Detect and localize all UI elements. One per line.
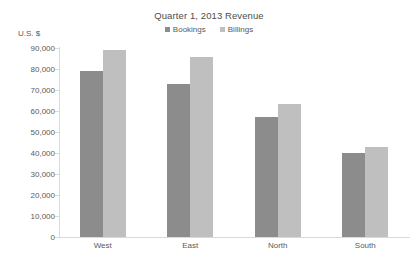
y-tick-label: 30,000 (31, 170, 55, 179)
x-axis-line (59, 237, 410, 238)
y-tick-mark (55, 237, 59, 238)
chart-title: Quarter 1, 2013 Revenue (0, 10, 418, 21)
legend-item-bookings[interactable]: Bookings (165, 25, 206, 34)
y-tick-label: 90,000 (31, 44, 55, 53)
y-tick-label: 20,000 (31, 191, 55, 200)
y-tick-label: 60,000 (31, 107, 55, 116)
y-tick-label: 40,000 (31, 149, 55, 158)
y-tick-label: 10,000 (31, 212, 55, 221)
x-tick-label-north: North (234, 241, 322, 250)
bar-bookings-north[interactable] (255, 117, 278, 237)
x-tick-label-east: East (147, 241, 235, 250)
y-tick-label: 50,000 (31, 128, 55, 137)
bar-bookings-south[interactable] (342, 153, 365, 237)
bar-bookings-west[interactable] (80, 71, 103, 237)
legend-swatch-icon (165, 27, 170, 32)
y-tick-label: 70,000 (31, 86, 55, 95)
bar-bookings-east[interactable] (167, 84, 190, 237)
bar-billings-west[interactable] (103, 50, 126, 237)
bar-billings-south[interactable] (365, 147, 388, 237)
bar-group (234, 48, 322, 237)
chart-container: Quarter 1, 2013 Revenue BookingsBillings… (0, 0, 418, 259)
legend-label: Bookings (173, 25, 206, 34)
bar-group (147, 48, 235, 237)
bar-billings-east[interactable] (190, 57, 213, 237)
bar-billings-north[interactable] (278, 104, 301, 237)
plot-area (59, 48, 409, 237)
bar-group (59, 48, 147, 237)
chart-legend: BookingsBillings (0, 25, 418, 34)
bar-group (322, 48, 410, 237)
y-axis-title: U.S. $ (18, 29, 40, 38)
legend-item-billings[interactable]: Billings (220, 25, 253, 34)
legend-swatch-icon (220, 27, 225, 32)
y-tick-label: 80,000 (31, 65, 55, 74)
x-tick-label-south: South (322, 241, 410, 250)
legend-label: Billings (228, 25, 253, 34)
x-tick-label-west: West (59, 241, 147, 250)
